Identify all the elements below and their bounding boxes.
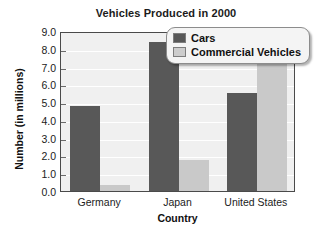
legend-swatch-cars-icon	[173, 33, 186, 43]
bar-japan-commercial-vehicles	[179, 160, 209, 191]
y-axis-tick-mark	[61, 157, 66, 158]
bar-germany-commercial-vehicles	[100, 185, 130, 191]
y-axis-tick-mark	[61, 122, 66, 123]
y-axis-tick-label: 0.0	[22, 186, 56, 198]
y-axis-tick-label: 8.0	[22, 44, 56, 56]
y-axis-tick-mark	[61, 69, 66, 70]
y-axis-tick-label: 5.0	[22, 97, 56, 109]
y-axis-tick-mark	[61, 86, 66, 87]
bar-chart-figure: Vehicles Produced in 2000 Number (in mil…	[0, 0, 332, 242]
y-axis-tick-label: 3.0	[22, 133, 56, 145]
y-axis-tick-label: 4.0	[22, 115, 56, 127]
legend-item-cars: Cars	[173, 31, 301, 45]
chart-title: Vehicles Produced in 2000	[0, 7, 332, 19]
bar-united-states-commercial-vehicles	[257, 61, 287, 191]
x-axis-tick-label: Japan	[163, 196, 192, 208]
x-axis-tick-label: United States	[224, 196, 287, 208]
y-axis-tick-mark	[61, 140, 66, 141]
y-axis-tick-mark	[61, 51, 66, 52]
y-axis-tick-mark	[61, 175, 66, 176]
y-axis-tick-mark	[61, 104, 66, 105]
legend-swatch-commercial-vehicles-icon	[173, 47, 186, 57]
y-axis-tick-label: 1.0	[22, 168, 56, 180]
bar-germany-cars	[70, 106, 100, 191]
legend-label-commercial-vehicles: Commercial Vehicles	[191, 46, 301, 59]
y-axis-tick-label: 2.0	[22, 150, 56, 162]
x-axis-tick-labels: GermanyJapanUnited States	[60, 196, 295, 212]
x-axis-tick-label: Germany	[78, 196, 121, 208]
chart-legend: Cars Commercial Vehicles	[166, 27, 310, 64]
y-axis-tick-label: 6.0	[22, 79, 56, 91]
y-axis-tick-label: 9.0	[22, 26, 56, 38]
legend-item-commercial-vehicles: Commercial Vehicles	[173, 45, 301, 59]
y-axis-tick-label: 7.0	[22, 62, 56, 74]
y-axis-tick-labels: 9.08.07.06.05.04.03.02.01.00.0	[22, 32, 56, 192]
legend-label-cars: Cars	[191, 32, 215, 45]
bar-japan-cars	[149, 42, 179, 191]
bar-united-states-cars	[227, 93, 257, 191]
x-axis-title: Country	[60, 212, 295, 224]
